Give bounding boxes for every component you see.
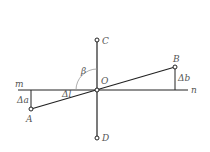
- label-b: B: [172, 54, 180, 64]
- point-c: [95, 38, 99, 42]
- label-beta: β: [80, 66, 86, 76]
- label-m: m: [15, 79, 24, 89]
- label-o: O: [101, 76, 109, 86]
- point-a: [29, 107, 33, 111]
- label-d: D: [101, 133, 109, 143]
- point-b: [173, 65, 177, 69]
- label-delta-a: Δa: [16, 95, 29, 105]
- point-o: [95, 88, 99, 92]
- beta-arc: [76, 69, 97, 90]
- label-delta-b: Δb: [177, 73, 190, 83]
- label-alpha: Δl: [61, 89, 71, 99]
- point-d: [95, 136, 99, 140]
- label-c: C: [102, 36, 109, 46]
- label-n: n: [191, 85, 197, 95]
- geometry-diagram: C D O A B m n Δa Δb β Δl: [0, 0, 210, 152]
- line-ab: [31, 67, 175, 109]
- label-a: A: [25, 114, 33, 124]
